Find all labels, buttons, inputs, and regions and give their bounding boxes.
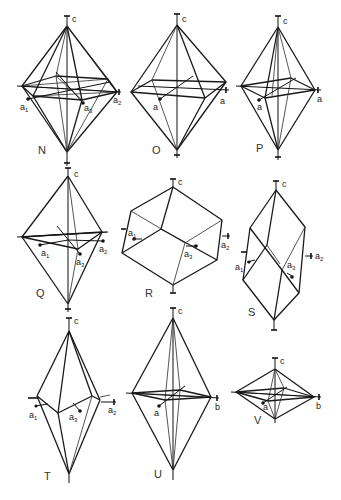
axis-label-c: c	[72, 14, 77, 24]
axis-label-a1: a1	[20, 102, 29, 113]
axis-label-c: c	[282, 179, 287, 189]
axis-label-c: c	[182, 14, 187, 24]
axis-label-a-front: a	[257, 102, 262, 112]
axis-label-b: b	[215, 402, 220, 412]
axis-label-a1: a1	[41, 248, 50, 259]
axis-label-a3: a3	[84, 103, 93, 114]
axis-label-a1: a1	[29, 410, 38, 421]
panel-p: c a a P	[236, 16, 322, 160]
panel-label-s: S	[248, 306, 255, 318]
axis-label-a2: a2	[108, 405, 117, 416]
axis-label-a2: a2	[113, 95, 122, 106]
axis-label-b: b	[316, 401, 321, 411]
panel-label-q: Q	[36, 287, 45, 299]
axis-label-c: c	[178, 177, 183, 187]
panel-label-r: R	[145, 287, 153, 299]
panel-label-o: O	[152, 144, 161, 156]
axis-label-a2: a2	[221, 240, 230, 251]
axis-label-a: a	[154, 408, 159, 418]
crystal-forms-figure: c a1 a3 a2 N c	[0, 0, 341, 500]
axis-label-a-right: a	[220, 96, 225, 106]
panel-t: c a1 a3 a2 T	[28, 316, 117, 483]
axis-label-a1: a1	[128, 228, 137, 239]
axis-label-c: c	[178, 306, 183, 316]
axis-label-a1: a1	[235, 262, 244, 273]
panel-n: c a1 a3 a2 N	[17, 14, 122, 166]
axis-label-a3: a3	[287, 260, 296, 271]
axis-label-a2: a2	[99, 244, 108, 255]
panel-label-n: N	[38, 144, 46, 156]
panel-label-u: U	[154, 468, 162, 480]
panel-q: c a1 a3 a2 Q	[17, 168, 108, 312]
panel-label-v: V	[254, 414, 262, 426]
axis-label-c: c	[280, 356, 285, 366]
axis-label-a2: a2	[315, 251, 324, 262]
axis-label-a: a	[263, 402, 268, 412]
panel-u: c a b U	[126, 306, 220, 480]
axis-label-a3: a3	[184, 249, 193, 260]
panel-label-t: T	[44, 470, 51, 482]
panel-o: c a a O	[131, 14, 229, 158]
axis-label-c: c	[74, 169, 79, 179]
axis-label-c: c	[283, 16, 288, 26]
axis-label-a-front: a	[153, 102, 158, 112]
axis-label-a3: a3	[69, 412, 78, 423]
panel-s: c a1 a3 a2 S	[235, 179, 324, 330]
panel-label-p: P	[256, 142, 263, 154]
panel-v: c a b V	[231, 356, 321, 426]
panel-r: c a1 a3 a2 R	[121, 177, 230, 299]
axis-label-c: c	[74, 316, 79, 326]
axis-label-a-right: a	[317, 94, 322, 104]
axis-label-a3: a3	[76, 257, 85, 268]
